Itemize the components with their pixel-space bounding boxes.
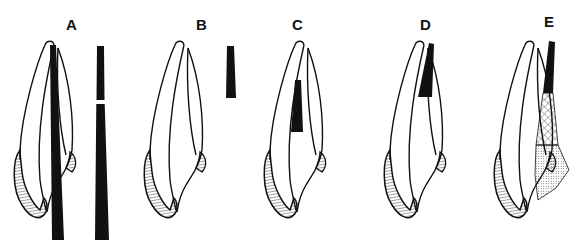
panel-label-e: E (544, 13, 554, 30)
panel-c (264, 41, 325, 217)
panel-d (384, 41, 445, 217)
panel-e (494, 41, 569, 218)
tooth-b (144, 41, 205, 217)
apical-fill-d (418, 43, 434, 97)
apical-fill-e (543, 41, 555, 93)
tooth-a (14, 41, 75, 217)
panel-label-a: A (66, 16, 77, 33)
panel-label-d: D (420, 16, 431, 33)
separate-post-upper-a (97, 46, 105, 100)
dotted-section-e (535, 145, 569, 200)
panel-a (14, 41, 109, 240)
crosshatch-section-e (536, 93, 558, 145)
separate-post-lower-a (95, 104, 109, 240)
panel-label-c: C (292, 16, 303, 33)
panel-label-b: B (196, 16, 207, 33)
short-post-b (226, 46, 236, 98)
panel-b (144, 41, 236, 217)
tooth-d (384, 41, 445, 217)
diagram-canvas (0, 0, 587, 240)
post-in-tooth-a (50, 45, 64, 240)
